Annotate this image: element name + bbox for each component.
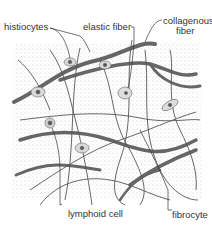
label-lymphoid-cell: lymphoid cell bbox=[68, 209, 123, 219]
label-fibrocyte: fibrocyte bbox=[172, 210, 208, 220]
label-collagenous-fiber-line2: fiber bbox=[176, 26, 194, 36]
label-elastic-fiber: elastic fiber bbox=[83, 22, 131, 32]
label-histiocytes: histiocytes bbox=[4, 22, 48, 32]
